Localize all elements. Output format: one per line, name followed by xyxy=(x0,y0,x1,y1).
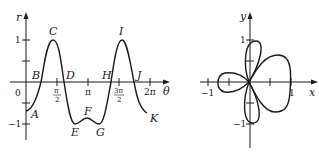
theta-axis-arrow-icon xyxy=(163,80,170,85)
point-label-c: C xyxy=(49,25,58,38)
point-label-k: K xyxy=(149,112,159,125)
point-label-a: A xyxy=(30,108,39,121)
y-tick-label-neg-1: −1 xyxy=(233,119,246,129)
y-tick-label-1: 1 xyxy=(240,35,246,45)
point-label-j: J xyxy=(135,69,142,82)
point-label-d: D xyxy=(65,69,75,82)
point-label-b: B xyxy=(31,69,40,82)
theta-tick-label-three-half-pi-num: 3π xyxy=(114,87,123,95)
point-label-f: F xyxy=(83,105,92,118)
r-axis-label: r xyxy=(16,11,22,24)
theta-tick-label-three-half-pi-den: 2 xyxy=(117,96,121,104)
r-axis-arrow-icon xyxy=(24,12,29,19)
point-label-g: G xyxy=(96,126,105,139)
y-axis-label: y xyxy=(239,10,247,23)
point-label-e: E xyxy=(70,126,79,139)
point-label-h: H xyxy=(101,69,112,82)
x-axis-label: x xyxy=(309,86,316,99)
right-polar-plot xyxy=(200,12,318,148)
x-axis-arrow-icon xyxy=(311,80,318,85)
x-tick-label-neg-1: −1 xyxy=(201,88,214,98)
point-label-i: I xyxy=(118,25,124,38)
origin-label: 0 xyxy=(15,88,21,98)
theta-axis-label: θ xyxy=(163,85,170,98)
theta-tick-label-half-pi-den: 2 xyxy=(55,96,59,104)
figure: r θ 0 1 −1 π 2 π 3π 2 2π A B C D E F G H… xyxy=(0,0,319,154)
theta-tick-label-half-pi-num: π xyxy=(54,87,59,95)
r-tick-label-1: 1 xyxy=(15,35,21,45)
theta-tick-label-two-pi: 2π xyxy=(144,87,156,97)
theta-tick-label-pi: π xyxy=(85,87,91,97)
y-axis-arrow-icon xyxy=(248,12,253,19)
r-tick-label-neg-1: −1 xyxy=(8,119,21,129)
x-tick-label-1: 1 xyxy=(289,88,295,98)
